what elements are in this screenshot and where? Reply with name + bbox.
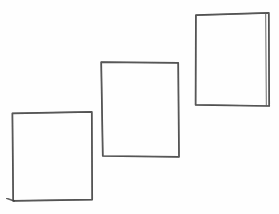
canvas-background — [0, 0, 279, 214]
sketch-canvas — [0, 0, 279, 214]
sketch-svg — [0, 0, 279, 214]
rect-upper-right-inner-stroke — [266, 13, 267, 105]
